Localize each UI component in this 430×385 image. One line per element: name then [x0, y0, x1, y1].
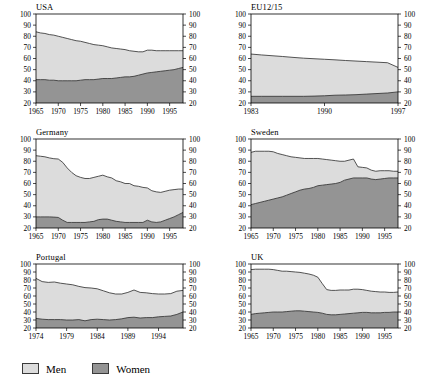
y-axis-label-left: 70	[24, 168, 32, 177]
y-axis-label-left: 80	[24, 276, 32, 285]
plot-area: 2020303040405050606070708080909010010019…	[215, 0, 430, 125]
y-axis-label-right: 60	[189, 179, 197, 188]
x-axis-label: 1970	[266, 232, 281, 241]
x-axis-label: 1975	[73, 107, 88, 116]
y-axis-label-right: 40	[189, 308, 197, 317]
y-axis-label-left: 40	[239, 76, 247, 85]
y-axis-label-left: 90	[24, 146, 32, 155]
x-axis-label: 1995	[377, 232, 392, 241]
y-axis-label-right: 100	[189, 260, 200, 269]
x-axis-label: 1970	[51, 232, 66, 241]
y-axis-label-right: 90	[404, 146, 412, 155]
y-axis-label-right: 20	[189, 324, 197, 333]
x-axis-label: 1995	[162, 232, 177, 241]
y-axis-label-left: 70	[24, 43, 32, 52]
legend-label: Women	[116, 363, 150, 375]
y-axis-label-left: 70	[239, 284, 247, 293]
x-axis-label: 1970	[51, 107, 66, 116]
y-axis-label-right: 40	[404, 201, 412, 210]
x-axis-label: 1980	[310, 332, 325, 341]
y-axis-label-right: 80	[404, 32, 412, 41]
plot-area: 2020303040405050606070708080909010010019…	[0, 0, 215, 125]
y-axis-label-left: 30	[239, 87, 247, 96]
x-axis-label: 1990	[355, 232, 370, 241]
legend-swatch-icon	[22, 363, 39, 374]
y-axis-label-left: 80	[24, 32, 32, 41]
x-axis-label: 1974	[29, 332, 44, 341]
y-axis-label-left: 80	[239, 157, 247, 166]
y-axis-label-left: 60	[24, 54, 32, 63]
y-axis-label-right: 100	[189, 10, 200, 19]
x-axis-label: 1985	[118, 107, 133, 116]
y-axis-label-right: 80	[189, 157, 197, 166]
y-axis-label-right: 60	[404, 179, 412, 188]
y-axis-label-right: 50	[189, 65, 197, 74]
y-axis-label-right: 70	[404, 284, 412, 293]
y-axis-label-right: 60	[404, 54, 412, 63]
plot-area: 2020303040405050606070708080909010010019…	[215, 125, 430, 250]
y-axis-label-right: 30	[404, 316, 412, 325]
y-axis-label-left: 40	[239, 201, 247, 210]
x-axis-label: 1965	[29, 107, 44, 116]
y-axis-label-left: 40	[239, 308, 247, 317]
y-axis-label-right: 30	[404, 87, 412, 96]
x-axis-label: 1990	[140, 232, 155, 241]
y-axis-label-right: 100	[404, 10, 415, 19]
y-axis-label-right: 70	[189, 284, 197, 293]
y-axis-label-right: 50	[404, 300, 412, 309]
x-axis-label: 1965	[244, 332, 259, 341]
area-series-men	[36, 156, 183, 223]
y-axis-label-right: 80	[404, 276, 412, 285]
y-axis-label-right: 90	[189, 21, 197, 30]
y-axis-label-left: 50	[24, 300, 32, 309]
y-axis-label-right: 40	[189, 201, 197, 210]
panel-title: Germany	[36, 127, 68, 137]
x-axis-label: 1994	[151, 332, 166, 341]
y-axis-label-right: 50	[404, 65, 412, 74]
x-axis-label: 1980	[310, 232, 325, 241]
legend-label: Men	[46, 363, 66, 375]
y-axis-label-right: 50	[189, 190, 197, 199]
y-axis-label-left: 100	[20, 260, 31, 269]
y-axis-label-left: 50	[239, 65, 247, 74]
y-axis-label-left: 40	[24, 308, 32, 317]
y-axis-label-right: 70	[189, 168, 197, 177]
y-axis-label-left: 60	[239, 179, 247, 188]
y-axis-label-right: 70	[404, 43, 412, 52]
y-axis-label-right: 20	[189, 99, 197, 108]
chart-legend: MenWomen	[0, 352, 430, 385]
y-axis-label-right: 40	[404, 76, 412, 85]
y-axis-label-left: 90	[239, 146, 247, 155]
x-axis-label: 1984	[90, 332, 105, 341]
y-axis-label-right: 60	[404, 292, 412, 301]
x-axis-label: 1997	[391, 107, 406, 116]
y-axis-label-right: 90	[189, 268, 197, 277]
y-axis-label-right: 30	[189, 212, 197, 221]
y-axis-label-left: 40	[24, 76, 32, 85]
x-axis-label: 1990	[355, 332, 370, 341]
y-axis-label-right: 90	[404, 268, 412, 277]
y-axis-label-right: 80	[404, 157, 412, 166]
x-axis-label: 1965	[244, 232, 259, 241]
x-axis-label: 1985	[333, 232, 348, 241]
y-axis-label-right: 40	[404, 308, 412, 317]
y-axis-label-left: 70	[24, 284, 32, 293]
y-axis-label-right: 80	[189, 32, 197, 41]
y-axis-label-right: 90	[404, 21, 412, 30]
area-series-men	[36, 278, 183, 320]
y-axis-label-left: 80	[239, 276, 247, 285]
x-axis-label: 1975	[288, 232, 303, 241]
y-axis-label-left: 30	[24, 316, 32, 325]
y-axis-label-right: 100	[404, 135, 415, 144]
y-axis-label-right: 50	[404, 190, 412, 199]
y-axis-label-left: 60	[239, 54, 247, 63]
y-axis-label-left: 70	[239, 168, 247, 177]
y-axis-label-left: 60	[24, 292, 32, 301]
y-axis-label-right: 20	[404, 224, 412, 233]
y-axis-label-left: 90	[24, 268, 32, 277]
x-axis-label: 1989	[120, 332, 135, 341]
x-axis-label: 1985	[333, 332, 348, 341]
x-axis-label: 1979	[59, 332, 74, 341]
y-axis-label-right: 30	[189, 316, 197, 325]
chart-panel-sweden: Sweden2020303040405050606070708080909010…	[215, 125, 430, 250]
